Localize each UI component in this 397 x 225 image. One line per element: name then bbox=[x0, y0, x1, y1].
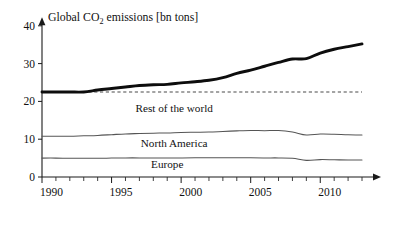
x-tick-label: 2000 bbox=[179, 186, 202, 198]
y-tick-label: 40 bbox=[24, 20, 36, 32]
x-minor-tick-marks bbox=[56, 177, 362, 181]
x-axis-group: 19901995200020052010 bbox=[40, 174, 381, 198]
x-tick-label: 2005 bbox=[249, 186, 272, 198]
series-line-boundary bbox=[42, 130, 362, 136]
x-tick-labels: 19901995200020052010 bbox=[40, 186, 342, 198]
band-label: Rest of the world bbox=[135, 102, 213, 114]
y-tick-label: 10 bbox=[24, 133, 36, 145]
x-axis-arrow-icon bbox=[373, 174, 381, 181]
y-tick-label: 0 bbox=[29, 171, 35, 183]
band-labels: Rest of the worldNorth AmericaEurope bbox=[135, 102, 213, 170]
series-line-boundary bbox=[42, 158, 362, 161]
y-tick-labels: 010203040 bbox=[24, 20, 36, 183]
chart-canvas: 010203040 19901995200020052010 Rest of t… bbox=[0, 0, 397, 225]
series-line-total bbox=[42, 44, 362, 92]
x-tick-label: 1990 bbox=[40, 186, 63, 198]
y-tick-label: 30 bbox=[24, 58, 36, 70]
band-label: Europe bbox=[151, 158, 183, 170]
x-tick-label: 2010 bbox=[318, 186, 341, 198]
co2-emissions-chart: 010203040 19901995200020052010 Rest of t… bbox=[0, 0, 397, 225]
y-axis-arrow-icon bbox=[39, 17, 46, 25]
y-tick-label: 20 bbox=[24, 95, 36, 107]
chart-title: Global CO2 emissions [bn tons] bbox=[48, 10, 198, 26]
x-tick-label: 1995 bbox=[110, 186, 133, 198]
y-tick-marks bbox=[38, 26, 42, 177]
band-label: North America bbox=[141, 137, 208, 149]
